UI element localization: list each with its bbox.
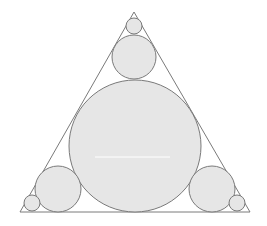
inscribed-circles-diagram [0,0,267,226]
circle-bottom-right-medium [189,166,235,212]
circle-bottom-left-medium [35,166,81,212]
circle-top-medium [112,35,156,79]
circle-bottom-left-small [24,195,40,211]
circle-large-center [69,80,201,212]
circles-group [24,18,245,212]
diagram-canvas [0,0,267,226]
circle-top-small [126,18,142,34]
circle-bottom-right-small [229,195,245,211]
